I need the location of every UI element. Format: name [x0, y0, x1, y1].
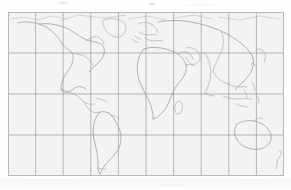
scan-artifact-bottom — [0, 179, 291, 190]
world-map-svg — [8, 12, 284, 176]
world-map-figure — [8, 12, 284, 176]
scan-artifact-top — [0, 0, 291, 11]
document-page — [0, 0, 291, 190]
